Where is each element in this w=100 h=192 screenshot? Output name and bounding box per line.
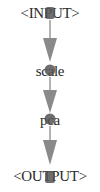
node-pca-marker-icon[interactable] <box>45 114 56 125</box>
node-markers-layer <box>0 0 100 192</box>
node-output-marker-icon[interactable] <box>45 171 55 183</box>
node-input-marker-icon[interactable] <box>45 7 55 19</box>
pipeline-diagram: <INPUT> scale pca <OUTPUT> <box>0 0 100 192</box>
node-scale-marker-icon[interactable] <box>45 65 56 76</box>
